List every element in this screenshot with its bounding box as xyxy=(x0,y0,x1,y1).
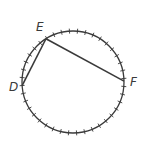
chord-ef xyxy=(46,39,124,81)
tick-mark xyxy=(60,129,61,134)
circle-diagram: EDF xyxy=(0,0,148,164)
tick-mark xyxy=(84,129,85,134)
tick-mark xyxy=(120,94,125,95)
tick-mark xyxy=(120,70,125,71)
tick-mark xyxy=(85,30,86,35)
tick-mark xyxy=(21,69,26,70)
point-label-e: E xyxy=(36,20,44,34)
circle xyxy=(22,31,124,133)
tick-mark xyxy=(61,30,62,35)
point-label-f: F xyxy=(130,75,138,89)
tick-mark xyxy=(21,93,26,94)
tick-marks xyxy=(20,29,127,136)
point-label-d: D xyxy=(9,80,18,94)
